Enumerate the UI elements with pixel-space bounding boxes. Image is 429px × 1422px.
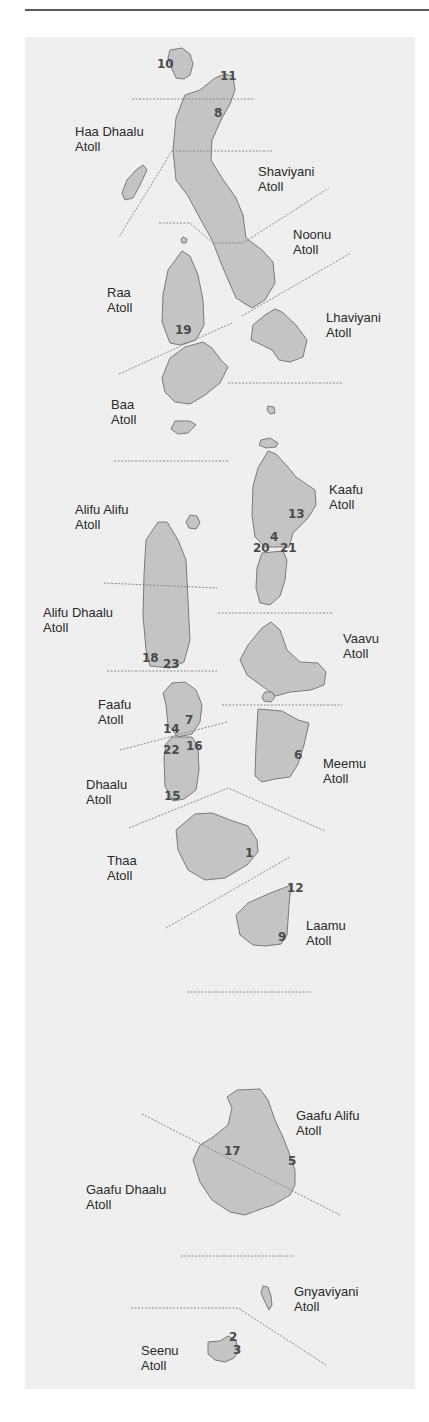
- island-kaafu-south: [256, 551, 287, 605]
- site-number: 22: [163, 743, 180, 757]
- site-number: 5: [288, 1154, 296, 1168]
- label-gnyaviyani: GnyaviyaniAtoll: [294, 1284, 358, 1314]
- site-number: 12: [287, 881, 304, 895]
- label-gaafu-alifu: Gaafu AlifuAtoll: [296, 1108, 360, 1138]
- site-number: 6: [294, 748, 302, 762]
- site-number: 7: [185, 713, 193, 727]
- island-vaavu: [240, 622, 326, 696]
- site-number: 15: [164, 789, 181, 803]
- label-kaafu: KaafuAtoll: [329, 482, 363, 512]
- label-faafu: FaafuAtoll: [98, 697, 131, 727]
- label-seenu: SeenuAtoll: [141, 1343, 179, 1373]
- maldives-map: 10 11 8 19 13 4 20 21 18 23 7 14 22 16 6…: [0, 0, 429, 1422]
- site-number: 11: [220, 69, 237, 83]
- island-tiny-raa: [181, 237, 187, 243]
- label-shaviyani: ShaviyaniAtoll: [258, 164, 314, 194]
- label-dhaalu: DhaaluAtoll: [86, 777, 127, 807]
- site-number: 14: [163, 722, 180, 736]
- island-baa: [162, 342, 228, 404]
- island-gaafu: [193, 1089, 295, 1215]
- site-number: 10: [157, 57, 174, 71]
- island-lhaviyani: [251, 309, 307, 362]
- site-number: 3: [233, 1343, 241, 1357]
- label-haa-dhaalu: Haa DhaaluAtoll: [75, 124, 144, 154]
- island-meemu-north: [262, 692, 275, 702]
- island-gnyaviyani: [261, 1286, 272, 1310]
- label-laamu: LaamuAtoll: [306, 918, 346, 948]
- label-alifu-alifu: Alifu AlifuAtoll: [75, 502, 128, 532]
- label-vaavu: VaavuAtoll: [343, 631, 379, 661]
- site-number: 1: [245, 846, 253, 860]
- label-gaafu-dhaalu: Gaafu DhaaluAtoll: [86, 1182, 166, 1212]
- island-meemu: [255, 709, 309, 782]
- site-number: 8: [214, 106, 222, 120]
- site-number: 17: [224, 1144, 241, 1158]
- island-tiny-kaafu: [267, 406, 275, 414]
- site-number: 13: [288, 507, 305, 521]
- label-noonu: NoonuAtoll: [293, 227, 331, 257]
- site-number: 20: [253, 541, 270, 555]
- site-number: 19: [175, 323, 192, 337]
- island-kaafu: [252, 451, 316, 547]
- site-number: 2: [229, 1330, 237, 1344]
- island-kaafu-north: [259, 438, 278, 448]
- site-number: 4: [270, 530, 278, 544]
- island-alifu: [143, 522, 190, 668]
- label-thaa: ThaaAtoll: [107, 853, 137, 883]
- site-number: 21: [280, 541, 297, 555]
- label-meemu: MeemuAtoll: [323, 756, 366, 786]
- site-number: 9: [278, 930, 286, 944]
- island-baa-small: [171, 421, 196, 434]
- label-lhaviyani: LhaviyaniAtoll: [326, 310, 381, 340]
- label-raa: RaaAtoll: [107, 285, 132, 315]
- label-alifu-dhaalu: Alifu DhaaluAtoll: [43, 605, 113, 635]
- island-haa-dhaalu-west: [122, 165, 147, 200]
- island-alifu-alifu-small: [186, 515, 200, 529]
- label-baa: BaaAtoll: [111, 397, 136, 427]
- site-number: 23: [163, 657, 180, 671]
- site-number: 18: [142, 651, 159, 665]
- site-number: 16: [186, 739, 203, 753]
